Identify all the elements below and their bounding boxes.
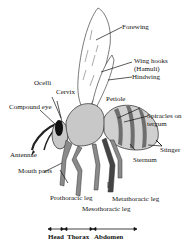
spiracles-label: Spiracles on: [147, 113, 181, 120]
thorax-region-label: Thorax: [67, 234, 89, 241]
ocelli-label: Ocelli: [34, 80, 51, 87]
metathoracic-leg-label: Metathoracic leg: [112, 196, 159, 203]
abdomen-region-label: Abdomen: [94, 234, 123, 241]
petiole-label: Petiole: [106, 96, 125, 103]
compound-eye-label: Compound eye: [9, 104, 52, 111]
hamuli-label: (Hamuli): [134, 66, 160, 73]
tergum-label: tergum: [147, 121, 167, 128]
mouth-parts-label: Mouth parts: [18, 168, 52, 175]
thorax-shape: [66, 104, 105, 146]
mesothoracic-leg-label: Mesothoracic leg: [82, 206, 130, 213]
antennae-label: Antennae: [10, 152, 37, 159]
sternum-label: Sternum: [133, 157, 157, 164]
legs: [60, 138, 122, 196]
hindwing-label: Hindwing: [132, 74, 160, 81]
stinger-label: Stinger: [160, 147, 180, 154]
compound-eye-shape: [55, 120, 63, 136]
wing-hooks-label: Wing hooks: [134, 58, 168, 65]
forewing-label: Forewing: [122, 24, 149, 31]
body-region-arrows: [48, 228, 137, 231]
head-region-label: Head: [48, 234, 64, 241]
cervix-label: Cervix: [56, 89, 75, 96]
prothoracic-leg-label: Prothoracic leg: [50, 195, 93, 202]
